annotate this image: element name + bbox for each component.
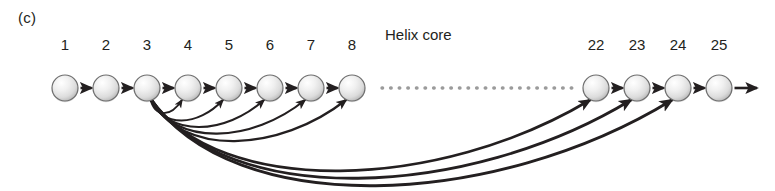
residue-label-23: 23 [622, 36, 652, 53]
residue-node-23 [624, 75, 650, 102]
residue-label-7: 7 [296, 36, 326, 53]
residue-label-3: 3 [132, 36, 162, 53]
residue-node-4 [175, 75, 201, 102]
helix-core-label: Helix core [385, 26, 452, 43]
residue-node-6 [257, 75, 283, 102]
panel-letter: (c) [18, 9, 36, 26]
figure-panel-c: (c) Helix core 1234567822232425 [0, 0, 775, 191]
residue-label-6: 6 [255, 36, 285, 53]
residue-label-1: 1 [50, 36, 80, 53]
residue-label-24: 24 [663, 36, 693, 53]
residue-node-3 [134, 75, 160, 102]
residue-node-7 [298, 75, 324, 102]
residue-label-4: 4 [173, 36, 203, 53]
residue-node-25 [706, 75, 732, 102]
residue-node-8 [339, 75, 365, 102]
residue-label-22: 22 [581, 36, 611, 53]
residue-node-2 [93, 75, 119, 102]
residue-label-25: 25 [704, 36, 734, 53]
residue-label-8: 8 [337, 36, 367, 53]
residue-label-2: 2 [91, 36, 121, 53]
residue-label-5: 5 [214, 36, 244, 53]
residue-node-22 [583, 75, 609, 102]
contact-arcs-group [150, 98, 672, 186]
residue-node-5 [216, 75, 242, 102]
residue-node-1 [52, 75, 78, 102]
residue-node-24 [665, 75, 691, 102]
